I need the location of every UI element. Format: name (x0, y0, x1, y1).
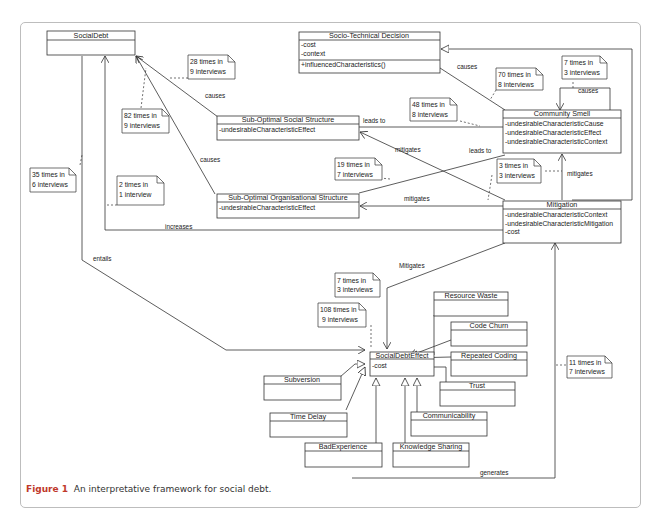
figure-caption: Figure 1 An interpretative framework for… (26, 484, 271, 494)
note-7-mitigates: 7 times in 3 interviews (335, 273, 380, 297)
svg-text:7 times in: 7 times in (337, 277, 366, 284)
svg-text:Time Delay: Time Delay (290, 412, 326, 421)
svg-text:3 interviews: 3 interviews (337, 286, 373, 293)
svg-text:7 interviews: 7 interviews (337, 171, 373, 178)
svg-text:9 interviews: 9 interviews (190, 68, 226, 75)
svg-text:9 interviews: 9 interviews (124, 122, 160, 129)
svg-text:-undesirableCharacteristicCont: -undesirableCharacteristicContext (505, 211, 607, 218)
uml-diagram: SocialDebt Socio-Technical Decision -cos… (0, 0, 659, 526)
note-7-smell: 7 times in 3 interviews (562, 56, 607, 79)
svg-text:11 times in: 11 times in (569, 359, 602, 366)
class-social-debt[interactable]: SocialDebt (47, 31, 135, 55)
class-bad-experience[interactable]: BadExperience (305, 442, 382, 467)
svg-text:leads to: leads to (363, 117, 386, 124)
note-2: 2 times in 1 interview (117, 176, 164, 205)
svg-text:2 times in: 2 times in (119, 181, 148, 188)
svg-text:-undesirableCharacteristicCaus: -undesirableCharacteristicCause (505, 120, 604, 127)
svg-text:Repeated Coding: Repeated Coding (461, 351, 517, 360)
class-knowledge-sharing[interactable]: Knowledge Sharing (393, 442, 469, 467)
svg-text:BadExperience: BadExperience (319, 442, 368, 451)
svg-text:1 interview: 1 interview (119, 191, 152, 198)
caption-text: An interpretative framework for social d… (74, 484, 272, 494)
gen-time-delay (346, 367, 365, 410)
class-mitigation[interactable]: Mitigation -undesirableCharacteristicCon… (503, 200, 621, 243)
class-resource-waste[interactable]: Resource Waste (434, 291, 508, 316)
svg-text:increases: increases (165, 223, 192, 230)
svg-text:19 times in: 19 times in (337, 161, 370, 168)
svg-text:35 times in: 35 times in (32, 171, 65, 178)
note-28: 28 times in 9 interviews (188, 55, 235, 79)
svg-text:generates: generates (480, 469, 508, 477)
svg-text:mitigates: mitigates (567, 170, 593, 178)
svg-text:leads to: leads to (469, 147, 492, 154)
class-code-churn[interactable]: Code Churn (451, 321, 527, 346)
class-repeated-coding[interactable]: Repeated Coding (451, 351, 527, 376)
caption-label: Figure 1 (26, 484, 68, 494)
svg-text:Subversion: Subversion (284, 375, 320, 384)
svg-text:causes: causes (578, 87, 598, 94)
svg-text:3 interviews: 3 interviews (564, 69, 600, 76)
svg-text:+influencedCharacteristics(): +influencedCharacteristics() (301, 61, 385, 69)
note-3: 3 times in 3 interviews (497, 159, 541, 183)
class-sub-optimal-social-structure[interactable]: Sub-Optimal Social Structure -undesirabl… (217, 115, 359, 140)
class-social-debt-effect[interactable]: SocialDebtEffect -cost (370, 351, 434, 376)
svg-text:Sub-Optimal Organisational Str: Sub-Optimal Organisational Structure (228, 193, 347, 202)
svg-text:mitigates: mitigates (404, 195, 430, 203)
svg-text:entails: entails (93, 255, 111, 262)
svg-text:Resource Waste: Resource Waste (445, 291, 498, 300)
svg-text:3 interviews: 3 interviews (499, 172, 535, 179)
gen-resource-waste (409, 315, 434, 355)
svg-text:causes: causes (457, 63, 477, 70)
note-35: 35 times in 6 interviews (30, 168, 76, 192)
svg-text:108 times in: 108 times in (320, 306, 357, 313)
svg-text:SocialDebtEffect: SocialDebtEffect (375, 351, 428, 360)
svg-text:-undesirableCharacteristicCont: -undesirableCharacteristicContext (505, 138, 607, 145)
svg-text:Knowledge Sharing: Knowledge Sharing (400, 442, 462, 451)
class-sub-optimal-organisational-structure[interactable]: Sub-Optimal Organisational Structure -un… (217, 193, 359, 218)
class-trust[interactable]: Trust (440, 381, 515, 406)
svg-text:-undesirableCharacteristicEffe: -undesirableCharacteristicEffect (505, 129, 601, 136)
class-communicability[interactable]: Communicability (411, 411, 487, 436)
svg-text:Code Churn: Code Churn (470, 321, 509, 330)
svg-text:70 times in: 70 times in (498, 71, 531, 78)
svg-text:causes: causes (205, 92, 225, 99)
class-socio-technical-decision[interactable]: Socio-Technical Decision -cost -context … (299, 31, 440, 73)
class-time-delay[interactable]: Time Delay (270, 412, 347, 437)
svg-text:-cost: -cost (372, 362, 387, 369)
svg-text:82 times in: 82 times in (124, 112, 157, 119)
note-82: 82 times in 9 interviews (122, 109, 169, 133)
svg-text:3 times in: 3 times in (499, 162, 528, 169)
note-70: 70 times in 8 interviews (496, 68, 543, 90)
note-11: 11 times in 7 interviews (567, 356, 612, 378)
note-48: 48 times in 8 interviews (410, 98, 457, 121)
svg-text:-cost: -cost (301, 41, 316, 48)
class-title: SocialDebt (74, 31, 109, 40)
note-108: 108 times in 9 interviews (318, 303, 366, 327)
note-19: 19 times in 7 interviews (335, 158, 382, 180)
svg-text:8 interviews: 8 interviews (498, 81, 534, 88)
svg-text:8 interviews: 8 interviews (412, 111, 448, 118)
svg-text:causes: causes (200, 156, 220, 163)
svg-text:Trust: Trust (469, 381, 485, 390)
svg-text:6 interviews: 6 interviews (32, 181, 68, 188)
svg-text:7 times in: 7 times in (564, 59, 593, 66)
svg-text:-undesirableCharacteristicEffe: -undesirableCharacteristicEffect (219, 126, 315, 133)
svg-text:Sub-Optimal Social Structure: Sub-Optimal Social Structure (242, 115, 335, 124)
svg-text:9 interviews: 9 interviews (322, 316, 358, 323)
svg-text:Mitigates: Mitigates (399, 262, 425, 270)
svg-text:-undesirableCharacteristicMiti: -undesirableCharacteristicMitigation (505, 220, 613, 228)
svg-text:28 times in: 28 times in (190, 58, 223, 65)
svg-text:Community Smell: Community Smell (534, 109, 591, 118)
svg-text:mitigates: mitigates (395, 146, 421, 154)
svg-text:-context: -context (301, 50, 325, 57)
svg-text:Mitigation: Mitigation (547, 200, 578, 209)
svg-text:-undesirableCharacteristicEffe: -undesirableCharacteristicEffect (219, 204, 315, 211)
svg-text:Communicability: Communicability (423, 411, 476, 420)
svg-text:7 interviews: 7 interviews (569, 368, 605, 375)
class-subversion[interactable]: Subversion (264, 375, 341, 400)
class-community-smell[interactable]: Community Smell -undesirableCharacterist… (503, 109, 621, 153)
svg-text:-cost: -cost (505, 228, 520, 235)
svg-text:Socio-Technical Decision: Socio-Technical Decision (329, 31, 409, 40)
svg-text:48 times in: 48 times in (412, 101, 445, 108)
